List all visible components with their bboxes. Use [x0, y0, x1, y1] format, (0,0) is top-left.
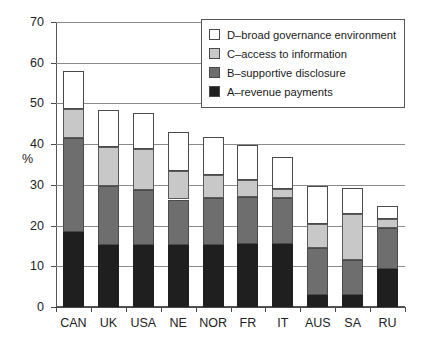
bar-segment-sa-c[interactable] — [342, 214, 363, 260]
bar-segment-aus-d[interactable] — [307, 186, 328, 224]
y-tick-label-70: 70 — [0, 16, 44, 29]
x-tick-mark-5 — [265, 307, 266, 312]
bar-slot-ne — [161, 22, 196, 307]
y-tick-label-60: 60 — [0, 57, 44, 70]
bar-segment-nor-c[interactable] — [203, 175, 224, 198]
legend-swatch-icon-3 — [209, 86, 220, 97]
x-tick-label-ru: RU — [366, 316, 410, 330]
y-tick-label-40: 40 — [0, 138, 44, 151]
bar-segment-usa-c[interactable] — [133, 149, 154, 189]
chart-legend: D–broad governance environmentC–access t… — [201, 19, 405, 108]
bar-segment-can-b[interactable] — [63, 138, 84, 232]
legend-row-1[interactable]: C–access to information — [209, 44, 397, 63]
legend-swatch-icon-2 — [209, 67, 220, 78]
bar-segment-nor-b[interactable] — [203, 198, 224, 245]
bar-segment-uk-d[interactable] — [98, 110, 119, 147]
bar-segment-uk-b[interactable] — [98, 186, 119, 245]
x-tick-mark-origin — [56, 307, 57, 312]
bar-segment-ru-a[interactable] — [377, 269, 398, 307]
bar-segment-ru-d[interactable] — [377, 206, 398, 219]
bar-slot-can — [56, 22, 91, 307]
y-tick-label-50: 50 — [0, 97, 44, 110]
stacked-bar-usa[interactable] — [133, 22, 154, 307]
legend-label-1: C–access to information — [227, 48, 347, 60]
bar-segment-can-d[interactable] — [63, 71, 84, 109]
legend-row-2[interactable]: B–supportive disclosure — [209, 63, 397, 82]
x-tick-mark-4 — [231, 307, 232, 312]
bar-segment-fr-b[interactable] — [237, 197, 258, 244]
bar-segment-ne-c[interactable] — [168, 171, 189, 199]
stacked-bar-chart: 010203040506070 % CANUKUSANENORFRITAUSSA… — [0, 0, 422, 343]
bar-segment-it-a[interactable] — [272, 244, 293, 307]
bar-slot-uk — [91, 22, 126, 307]
x-tick-mark-3 — [196, 307, 197, 312]
legend-swatch-icon-0 — [209, 29, 220, 40]
bar-segment-nor-a[interactable] — [203, 245, 224, 307]
bar-segment-ru-b[interactable] — [377, 228, 398, 269]
y-tick-label-20: 20 — [0, 220, 44, 233]
bar-segment-ne-a[interactable] — [168, 245, 189, 307]
bar-segment-uk-c[interactable] — [98, 147, 119, 186]
y-tick-label-30: 30 — [0, 179, 44, 192]
bar-segment-aus-c[interactable] — [307, 224, 328, 249]
bar-segment-ne-b[interactable] — [168, 200, 189, 246]
x-tick-mark-1 — [126, 307, 127, 312]
y-tick-label-10: 10 — [0, 260, 44, 273]
legend-row-0[interactable]: D–broad governance environment — [209, 25, 397, 44]
x-tick-mark-7 — [335, 307, 336, 312]
x-tick-mark-9 — [405, 307, 406, 312]
bar-segment-fr-d[interactable] — [237, 145, 258, 180]
bar-segment-sa-d[interactable] — [342, 188, 363, 214]
legend-label-2: B–supportive disclosure — [227, 67, 346, 79]
bar-segment-fr-c[interactable] — [237, 180, 258, 198]
legend-label-0: D–broad governance environment — [227, 29, 396, 41]
bar-segment-fr-a[interactable] — [237, 244, 258, 307]
bar-segment-usa-a[interactable] — [133, 245, 154, 307]
bar-slot-usa — [126, 22, 161, 307]
x-tick-mark-2 — [161, 307, 162, 312]
bar-segment-ru-c[interactable] — [377, 219, 398, 228]
bar-segment-nor-d[interactable] — [203, 137, 224, 175]
x-tick-mark-8 — [370, 307, 371, 312]
x-tick-mark-0 — [91, 307, 92, 312]
x-tick-mark-6 — [300, 307, 301, 312]
bar-segment-can-a[interactable] — [63, 232, 84, 307]
bar-segment-sa-a[interactable] — [342, 295, 363, 307]
legend-swatch-icon-1 — [209, 48, 220, 59]
bar-segment-ne-d[interactable] — [168, 132, 189, 172]
y-tick-label-0: 0 — [0, 301, 44, 314]
bar-segment-usa-b[interactable] — [133, 190, 154, 245]
y-axis-title: % — [22, 152, 33, 166]
bar-segment-it-d[interactable] — [272, 157, 293, 188]
stacked-bar-uk[interactable] — [98, 22, 119, 307]
bar-segment-sa-b[interactable] — [342, 260, 363, 295]
bar-segment-uk-a[interactable] — [98, 245, 119, 307]
bar-segment-usa-d[interactable] — [133, 113, 154, 149]
bar-segment-can-c[interactable] — [63, 109, 84, 138]
bar-segment-aus-a[interactable] — [307, 295, 328, 307]
legend-label-3: A–revenue payments — [227, 86, 333, 98]
legend-row-3[interactable]: A–revenue payments — [209, 82, 397, 101]
bar-segment-it-c[interactable] — [272, 189, 293, 199]
stacked-bar-ne[interactable] — [168, 22, 189, 307]
bar-segment-aus-b[interactable] — [307, 248, 328, 295]
stacked-bar-can[interactable] — [63, 22, 84, 307]
bar-segment-it-b[interactable] — [272, 198, 293, 244]
